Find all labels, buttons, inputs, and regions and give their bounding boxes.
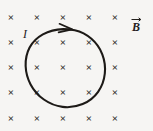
field-cross-icon: × xyxy=(112,112,118,124)
field-cross-icon: × xyxy=(112,11,118,23)
magnetic-field-label: B xyxy=(131,20,140,34)
field-cross-icon: × xyxy=(60,112,66,124)
field-cross-icon: × xyxy=(34,112,40,124)
field-cross-icon: × xyxy=(112,61,118,73)
field-cross-icon: × xyxy=(60,86,66,98)
field-cross-icon: × xyxy=(86,112,92,124)
field-cross-icon: × xyxy=(8,11,14,23)
field-cross-icon: × xyxy=(8,36,14,48)
field-cross-icon: × xyxy=(34,61,40,73)
field-cross-icon: × xyxy=(60,11,66,23)
magnetic-field-label-group: B xyxy=(131,18,141,34)
field-cross-icon: × xyxy=(8,61,14,73)
figure-canvas: × × × × × × × × × × × × × × × × × × × × … xyxy=(0,0,153,131)
field-cross-icon: × xyxy=(86,86,92,98)
field-cross-icon: × xyxy=(86,61,92,73)
field-cross-icon: × xyxy=(60,36,66,48)
field-cross-icon: × xyxy=(34,11,40,23)
physics-figure-current-loop-in-magnetic-field: × × × × × × × × × × × × × × × × × × × × … xyxy=(0,0,153,131)
field-cross-icon: × xyxy=(8,112,14,124)
field-cross-icon: × xyxy=(112,86,118,98)
field-cross-icon: × xyxy=(60,61,66,73)
field-cross-icon: × xyxy=(86,11,92,23)
figure-background xyxy=(0,0,153,131)
field-cross-icon: × xyxy=(112,36,118,48)
field-cross-icon: × xyxy=(8,86,14,98)
